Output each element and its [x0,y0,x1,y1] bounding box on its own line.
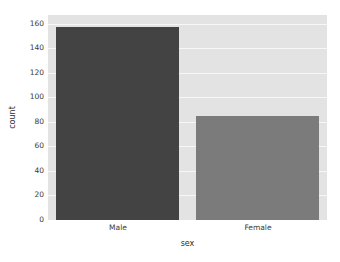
y-tick-label: 140 [2,44,44,52]
y-tick-label: 60 [2,142,44,150]
bar [196,116,319,220]
y-tick-label: 40 [2,167,44,175]
y-tick-label: 160 [2,20,44,28]
x-tick-label: Female [188,223,328,233]
x-axis-title: sex [48,239,327,249]
bar-chart-figure: count 020406080100120140160 MaleFemale s… [0,0,340,262]
y-tick-label: 20 [2,191,44,199]
y-tick-label: 120 [2,69,44,77]
y-tick-label: 0 [2,216,44,224]
y-axis-tick-labels: 020406080100120140160 [0,15,44,220]
y-tick-label: 80 [2,118,44,126]
gridline [48,24,327,25]
x-tick-label: Male [48,223,188,233]
y-tick-label: 100 [2,93,44,101]
x-axis-tick-labels: MaleFemale [48,223,327,237]
plot-area [48,15,327,220]
bar [56,27,179,220]
